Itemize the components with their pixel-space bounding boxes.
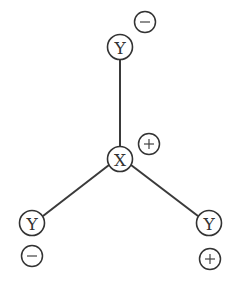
charge-positive-bottom-right-icon [200,249,221,270]
atom-label: X [114,150,127,170]
atom-y-bottom-left: Y [20,211,45,236]
molecule-diagram: Y X Y Y [0,0,238,293]
charge-negative-top-icon [135,12,156,33]
atom-label: Y [113,38,126,58]
atom-label: Y [25,214,38,234]
atom-x-center: X [108,147,133,172]
atom-label: Y [202,214,215,234]
charge-negative-bottom-left-icon [22,246,43,267]
charge-positive-center-icon [139,134,160,155]
atom-y-bottom-right: Y [197,211,222,236]
bond-bottom-right [131,165,198,216]
bond-bottom-left [43,165,109,216]
atom-y-top: Y [108,35,133,60]
